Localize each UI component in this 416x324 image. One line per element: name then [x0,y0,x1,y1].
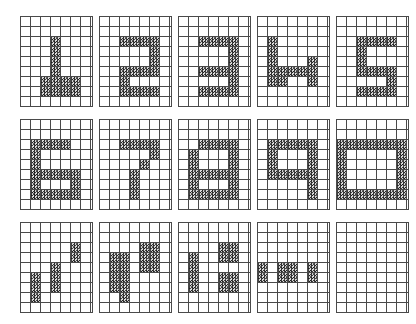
grid-cell-filled [149,36,159,46]
grid-cell-filled [208,86,218,96]
grid-cell-filled [386,86,396,96]
grid-cell-filled [30,169,40,179]
grid-cell-filled [346,139,356,149]
grid-cell-filled [60,169,70,179]
grid-cell-filled [356,46,366,56]
grid-cell-filled [267,159,277,169]
grid-cell-filled [228,282,238,292]
grid-cell-filled [336,179,346,189]
grid-cell-filled [287,66,297,76]
panel-digit-5[interactable] [336,16,408,106]
grid-cell-filled [30,282,40,292]
grid-cell-filled [129,36,139,46]
grid-cell-filled [307,179,317,189]
grid-cell-filled [228,189,238,199]
grid-cell-filled [287,169,297,179]
grid-cell-filled [149,46,159,56]
grid-canvas [257,222,329,312]
panel-digit-9[interactable] [257,119,329,209]
grid-cell-filled [277,262,287,272]
grid-cell-filled [109,272,119,282]
panel-fragment-a[interactable] [20,222,92,312]
grid-cell-filled [218,169,228,179]
grid-cell-filled [129,86,139,96]
grid-cell-filled [40,169,50,179]
grid-cell-filled [60,76,70,86]
grid-cell-filled [396,179,406,189]
grid-cell-filled [139,262,149,272]
grid-cell-filled [109,262,119,272]
grid-cell-filled [228,56,238,66]
grid-cell-filled [188,149,198,159]
grid-cell-filled [188,282,198,292]
grid-cell-filled [139,36,149,46]
grid-cell-filled [149,139,159,149]
grid-cell-filled [336,149,346,159]
grid-cell-filled [149,56,159,66]
grid-cell-filled [70,189,80,199]
grid-cell-filled [129,139,139,149]
panel-digit-8[interactable] [178,119,250,209]
grid-cell-filled [267,149,277,159]
panel-fragment-c[interactable] [178,222,250,312]
panel-digit-1[interactable] [20,16,92,106]
grid-cell-filled [267,36,277,46]
grid-cell-filled [356,86,366,96]
panel-digit-7[interactable] [99,119,171,209]
grid-cell-filled [218,189,228,199]
panel-digit-3[interactable] [178,16,250,106]
grid-canvas [20,119,92,209]
panel-fragment-b[interactable] [99,222,171,312]
grid-cell-filled [50,86,60,96]
grid-cell-filled [149,86,159,96]
grid-cell-filled [307,149,317,159]
grid-canvas [20,222,92,312]
grid-cell-filled [50,76,60,86]
panel-digit-0[interactable] [336,119,408,209]
grid-cell-filled [70,76,80,86]
grid-cell-filled [208,189,218,199]
grid-canvas [257,119,329,209]
grid-cell-filled [396,159,406,169]
grid-cell-filled [30,292,40,302]
grid-cell-filled [386,66,396,76]
grid-cell-filled [198,66,208,76]
grid-cell-filled [139,242,149,252]
grid-cell-filled [297,66,307,76]
grid-cell-filled [188,262,198,272]
grid-cell-filled [119,139,129,149]
grid-cell-filled [30,159,40,169]
grid-cell-filled [267,66,277,76]
grid-cell-filled [50,282,60,292]
panel-digit-2[interactable] [99,16,171,106]
grid-digit-figure [0,0,416,324]
grid-cell-filled [119,272,129,282]
grid-cell-filled [228,272,238,282]
panel-digit-4[interactable] [257,16,329,106]
grid-cell-filled [139,86,149,96]
grid-canvas [99,119,171,209]
grid-cell-filled [208,36,218,46]
panel-digit-6[interactable] [20,119,92,209]
grid-cell-filled [139,159,149,169]
grid-cell-filled [129,66,139,76]
panel-fragment-d[interactable] [257,222,329,312]
grid-cell-filled [287,272,297,282]
grid-canvas [99,16,171,106]
grid-cell-filled [218,242,228,252]
grid-cell-filled [218,36,228,46]
grid-canvas [178,222,250,312]
grid-cell-filled [376,189,386,199]
grid-cell-filled [386,139,396,149]
grid-cell-filled [198,86,208,96]
grid-cell-filled [149,242,159,252]
grid-cell-filled [307,272,317,282]
grid-cell-filled [376,36,386,46]
grid-cell-filled [366,86,376,96]
grid-cell-filled [50,169,60,179]
grid-cell-filled [366,36,376,46]
panel-empty[interactable] [336,222,408,312]
grid-cell-filled [208,139,218,149]
grid-cell-filled [366,139,376,149]
grid-cell-filled [218,252,228,262]
